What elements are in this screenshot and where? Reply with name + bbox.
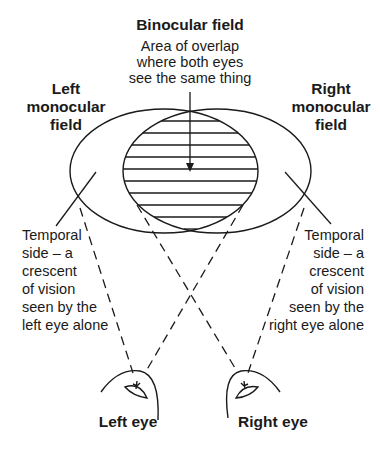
left-field-line: field <box>18 116 114 134</box>
right-temporal-side-label: Temporal side – a crescent of vision see… <box>258 226 364 334</box>
right-eye-icon <box>227 371 280 418</box>
left-temporal-line: side – a <box>22 244 122 262</box>
right-temporal-line: Temporal <box>258 226 364 244</box>
left-eye-label: Left eye <box>88 413 168 431</box>
binocular-field-title: Binocular field <box>120 16 260 34</box>
right-temporal-line: side – a <box>258 244 364 262</box>
left-temporal-side-label: Temporal side – a crescent of vision see… <box>22 226 122 334</box>
right-field-line: Right <box>283 80 379 98</box>
right-eye-label: Right eye <box>228 413 318 431</box>
left-temporal-line: Temporal <box>22 226 122 244</box>
binocular-field-description: Area of overlap where both eyes see the … <box>110 38 270 86</box>
left-temporal-line: of vision <box>22 280 122 298</box>
left-temporal-line: crescent <box>22 262 122 280</box>
right-temporal-line: crescent <box>258 262 364 280</box>
right-monocular-field-label: Right monocular field <box>283 80 379 134</box>
left-monocular-field-label: Left monocular field <box>18 80 114 134</box>
overlap-arrowhead <box>186 163 194 172</box>
left-field-line: Left <box>18 80 114 98</box>
left-field-line: monocular <box>18 98 114 116</box>
left-temporal-pointer <box>56 172 96 226</box>
right-temporal-line: right eye alone <box>258 316 364 334</box>
binocular-desc-line: where both eyes <box>110 54 270 70</box>
right-field-line: field <box>283 116 379 134</box>
right-temporal-line: of vision <box>258 280 364 298</box>
left-temporal-line: seen by the <box>22 298 122 316</box>
binocular-desc-line: see the same thing <box>110 70 270 86</box>
left-temporal-line: left eye alone <box>22 316 122 334</box>
right-temporal-pointer <box>285 172 331 224</box>
right-field-line: monocular <box>283 98 379 116</box>
right-temporal-line: seen by the <box>258 298 364 316</box>
binocular-desc-line: Area of overlap <box>110 38 270 54</box>
